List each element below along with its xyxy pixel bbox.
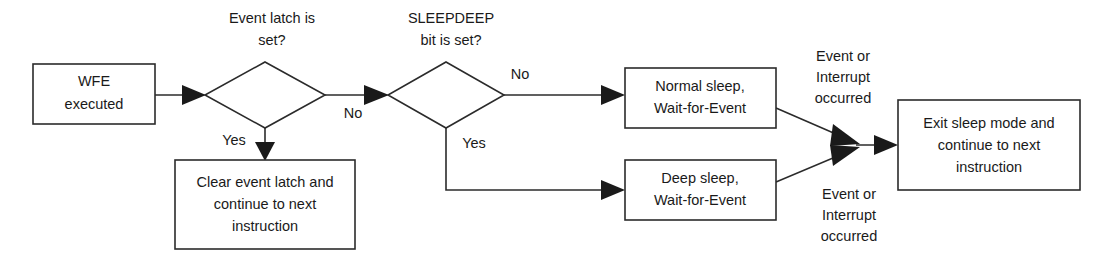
arrow-head-icon (874, 135, 898, 155)
arrow-head-icon (255, 142, 275, 161)
node-label-line1: Normal sleep, (655, 78, 744, 94)
edge-label-event-latch-yes: Yes (222, 132, 246, 148)
caption-line2: bit is set? (420, 32, 481, 48)
flowchart-canvas: WFE executed Event latch is set? SLEEPDE… (0, 0, 1109, 264)
edge-label-line1: Event or (822, 186, 876, 202)
decision-event-latch-caption: Event latch is set? (229, 10, 315, 48)
caption-line1: Event latch is (229, 10, 315, 26)
node-label-line3: instruction (956, 159, 1022, 175)
edge-normal-sleep-to-exit (776, 108, 860, 146)
flowchart-svg: WFE executed Event latch is set? SLEEPDE… (0, 0, 1109, 264)
caption-line2: set? (258, 32, 285, 48)
node-label-line1: WFE (78, 73, 111, 89)
node-label-line1: Deep sleep, (661, 170, 738, 186)
edge-label-deep-sleep-exit: Event or Interrupt occurred (821, 186, 877, 244)
node-label-line2: Wait-for-Event (654, 192, 746, 208)
edge-label-line3: occurred (815, 90, 871, 106)
arrow-head-icon (601, 180, 625, 200)
edge-wfe-to-event-latch (155, 85, 206, 105)
node-label-line2: continue to next (938, 137, 1040, 153)
node-shape-diamond (205, 62, 325, 128)
arrow-head-icon (830, 145, 860, 166)
edge-label-line2: Interrupt (816, 69, 870, 85)
caption-line1: SLEEPDEEP (408, 10, 494, 26)
decision-sleepdeep-caption: SLEEPDEEP bit is set? (408, 10, 494, 48)
edge-label-event-latch-no: No (344, 105, 363, 121)
arrow-head-icon (182, 85, 206, 105)
edge-event-latch-yes (255, 128, 275, 161)
edge-label-line1: Event or (816, 48, 870, 64)
node-label-line2: Wait-for-Event (654, 100, 746, 116)
node-shape-diamond (388, 62, 504, 128)
edge-sleepdeep-no (504, 85, 625, 105)
edge-label-line2: Interrupt (822, 207, 876, 223)
node-exit-sleep-mode[interactable]: Exit sleep mode and continue to next ins… (898, 100, 1080, 190)
node-label-line2: executed (65, 96, 124, 112)
node-clear-event-latch[interactable]: Clear event latch and continue to next i… (175, 160, 355, 249)
node-deep-sleep[interactable]: Deep sleep, Wait-for-Event (625, 160, 776, 220)
arrow-head-icon (364, 85, 389, 105)
arrow-head-icon (830, 124, 860, 146)
decision-sleepdeep[interactable] (388, 62, 504, 128)
node-label-line2: continue to next (214, 196, 316, 212)
node-label-line3: instruction (232, 218, 298, 234)
node-label-line1: Clear event latch and (196, 174, 333, 190)
node-label-line1: Exit sleep mode and (923, 115, 1054, 131)
node-normal-sleep[interactable]: Normal sleep, Wait-for-Event (625, 68, 776, 128)
edge-label-line3: occurred (821, 228, 877, 244)
edge-event-latch-no (325, 85, 389, 105)
edge-label-sleepdeep-yes: Yes (462, 135, 486, 151)
arrow-head-icon (601, 85, 625, 105)
edge-deep-sleep-to-exit (776, 145, 860, 182)
edge-junction-to-exit (856, 135, 898, 155)
edge-label-sleepdeep-no: No (511, 66, 530, 82)
decision-event-latch[interactable] (205, 62, 325, 128)
edge-label-normal-sleep-exit: Event or Interrupt occurred (815, 48, 871, 106)
node-wfe-executed[interactable]: WFE executed (33, 64, 155, 124)
